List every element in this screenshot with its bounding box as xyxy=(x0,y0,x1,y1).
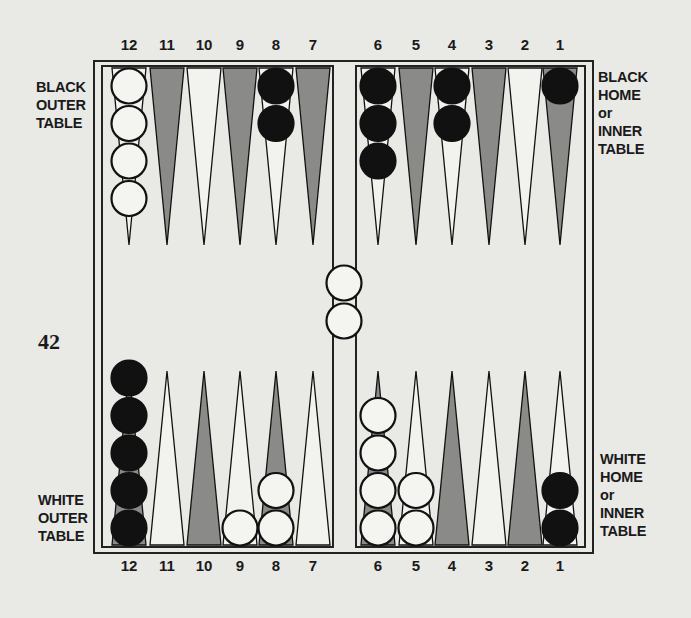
bottom-point-number-9: 9 xyxy=(236,557,244,574)
bottom-point-2[interactable] xyxy=(508,371,542,545)
bottom-point-3[interactable] xyxy=(472,371,506,545)
black-checker-bottom-12[interactable] xyxy=(112,361,147,396)
top-point-number-6: 6 xyxy=(374,36,382,53)
top-point-2[interactable] xyxy=(508,68,542,245)
label-black-home-table: BLACK HOME or INNER TABLE xyxy=(598,68,648,158)
top-point-number-4: 4 xyxy=(448,36,456,53)
black-checker-top-6[interactable] xyxy=(361,144,396,179)
label-black-outer-table: BLACK OUTER TABLE xyxy=(36,78,86,132)
bottom-point-number-6: 6 xyxy=(374,557,382,574)
bottom-point-number-3: 3 xyxy=(485,557,493,574)
black-checker-top-4[interactable] xyxy=(435,106,470,141)
top-point-number-3: 3 xyxy=(485,36,493,53)
top-point-number-2: 2 xyxy=(521,36,529,53)
bottom-point-number-2: 2 xyxy=(521,557,529,574)
black-checker-top-1[interactable] xyxy=(543,69,578,104)
bottom-point-number-10: 10 xyxy=(196,557,213,574)
white-checker-bottom-6[interactable] xyxy=(361,511,396,546)
label-white-home-table: WHITE HOME or INNER TABLE xyxy=(600,450,646,540)
top-point-number-9: 9 xyxy=(236,36,244,53)
bottom-point-11[interactable] xyxy=(150,371,184,545)
black-checker-top-4[interactable] xyxy=(435,69,470,104)
top-point-5[interactable] xyxy=(399,68,433,245)
white-checker-bottom-6[interactable] xyxy=(361,398,396,433)
black-checker-top-6[interactable] xyxy=(361,106,396,141)
bottom-point-number-4: 4 xyxy=(448,557,456,574)
checkers-layer xyxy=(112,69,578,546)
white-checker-top-12[interactable] xyxy=(112,106,147,141)
white-checker-bottom-6[interactable] xyxy=(361,473,396,508)
white-checker-bottom-6[interactable] xyxy=(361,436,396,471)
backgammon-board xyxy=(0,0,691,618)
bottom-point-number-12: 12 xyxy=(121,557,138,574)
top-point-11[interactable] xyxy=(150,68,184,245)
top-point-number-10: 10 xyxy=(196,36,213,53)
white-checker-top-12[interactable] xyxy=(112,144,147,179)
white-checker-bar[interactable] xyxy=(327,304,362,339)
top-point-number-11: 11 xyxy=(159,36,175,53)
black-checker-bottom-1[interactable] xyxy=(543,511,578,546)
black-checker-top-8[interactable] xyxy=(259,106,294,141)
top-point-10[interactable] xyxy=(187,68,221,245)
page-number: 42 xyxy=(38,329,60,355)
black-checker-top-8[interactable] xyxy=(259,69,294,104)
label-white-outer-table: WHITE OUTER TABLE xyxy=(38,491,88,545)
bottom-point-10[interactable] xyxy=(187,371,221,545)
bottom-point-number-1: 1 xyxy=(556,557,564,574)
bottom-point-4[interactable] xyxy=(435,371,469,545)
black-checker-top-6[interactable] xyxy=(361,69,396,104)
white-checker-bar[interactable] xyxy=(327,266,362,301)
bottom-point-number-7: 7 xyxy=(309,557,317,574)
top-point-number-1: 1 xyxy=(556,36,564,53)
white-checker-bottom-9[interactable] xyxy=(223,511,258,546)
black-checker-bottom-12[interactable] xyxy=(112,398,147,433)
top-point-number-5: 5 xyxy=(412,36,420,53)
black-checker-bottom-12[interactable] xyxy=(112,436,147,471)
white-checker-bottom-5[interactable] xyxy=(399,511,434,546)
white-checker-bottom-5[interactable] xyxy=(399,473,434,508)
top-point-number-12: 12 xyxy=(121,36,138,53)
bottom-point-number-11: 11 xyxy=(159,557,175,574)
white-checker-bottom-8[interactable] xyxy=(259,511,294,546)
top-point-7[interactable] xyxy=(296,68,330,245)
top-point-9[interactable] xyxy=(223,68,257,245)
white-checker-top-12[interactable] xyxy=(112,181,147,216)
white-checker-top-12[interactable] xyxy=(112,69,147,104)
white-checker-bottom-8[interactable] xyxy=(259,473,294,508)
top-point-number-7: 7 xyxy=(309,36,317,53)
top-point-3[interactable] xyxy=(472,68,506,245)
black-checker-bottom-1[interactable] xyxy=(543,473,578,508)
bottom-point-number-5: 5 xyxy=(412,557,420,574)
black-checker-bottom-12[interactable] xyxy=(112,473,147,508)
bottom-point-number-8: 8 xyxy=(272,557,280,574)
top-point-number-8: 8 xyxy=(272,36,280,53)
black-checker-bottom-12[interactable] xyxy=(112,511,147,546)
bottom-point-7[interactable] xyxy=(296,371,330,545)
